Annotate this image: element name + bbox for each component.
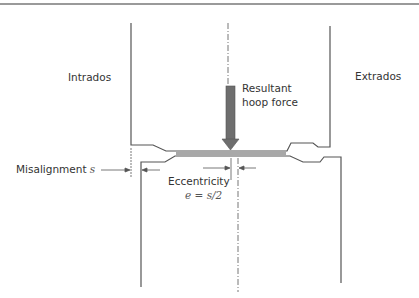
misalignment-symbol: s (90, 163, 95, 175)
misalignment-label: Misalignment s (16, 163, 95, 176)
resultant-label-line2: hoop force (242, 96, 298, 109)
extrados-label: Extrados (355, 70, 401, 83)
resultant-label-line1: Resultant (242, 82, 292, 95)
eccentricity-formula: e = s/2 (185, 189, 222, 202)
diagram-canvas (0, 0, 419, 298)
misalignment-text: Misalignment (16, 163, 87, 175)
misalignment-dimension (101, 148, 160, 178)
contact-band (176, 151, 286, 156)
resultant-force-arrow (222, 86, 239, 150)
eccentricity-label: Eccentricity (168, 175, 230, 188)
intrados-label: Intrados (68, 71, 111, 84)
